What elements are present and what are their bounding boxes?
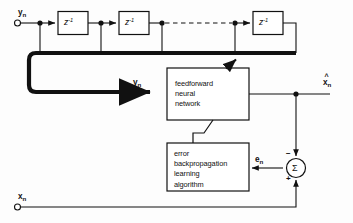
feedforward-neural-network-label: feedforward neural network: [175, 79, 213, 110]
lrn-line-3: learning: [174, 169, 227, 179]
nn-line-1: feedforward: [175, 79, 213, 89]
label-error-en: en: [255, 155, 263, 165]
hat-accent-icon: ^: [325, 73, 329, 81]
label-input-yn: yn: [18, 8, 26, 18]
wire-nn-to-learning: [193, 120, 213, 143]
delay-tap-bus: [29, 53, 296, 92]
lrn-line-4: algorithm: [174, 180, 227, 190]
label-input-xn: xn: [18, 192, 26, 202]
nn-line-2: neural: [175, 89, 213, 99]
wire-delay3-to-bus: [283, 23, 296, 53]
summing-junction-sigma: Σ: [292, 163, 298, 173]
label-bus-yn-vector: yn: [133, 78, 141, 88]
lrn-line-2: backpropagation: [174, 159, 227, 169]
figure-canvas: yn z-1 z-1 z-1 yn feedforward neural net…: [0, 0, 353, 223]
adaptation-arrow-icon: [226, 60, 236, 69]
label-output-xn-hat: ^ xn: [323, 78, 331, 88]
summing-junction-plus-sign: +: [286, 174, 291, 183]
input-terminal-xn: [15, 204, 21, 210]
wire-xn-to-sum: [21, 180, 297, 207]
nn-line-3: network: [175, 99, 213, 109]
input-terminal-yn: [15, 20, 21, 26]
delay-block-3-label: z-1: [259, 17, 268, 27]
error-backpropagation-learning-algorithm-label: error backpropagation learning algorithm: [174, 149, 227, 190]
lrn-line-1: error: [174, 149, 227, 159]
delay-block-1-label: z-1: [64, 17, 73, 27]
summing-junction-minus-sign: −: [286, 149, 291, 158]
delay-block-2-label: z-1: [125, 17, 134, 27]
